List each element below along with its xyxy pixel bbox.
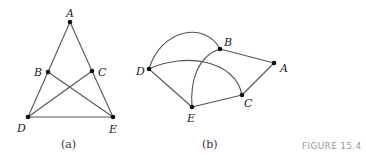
label-b-C: C: [244, 97, 253, 110]
graph-a: A B C D E (a): [16, 7, 117, 151]
edge-b-be: [192, 49, 220, 107]
edge-b-ce: [192, 95, 242, 107]
figure-canvas: A B C D E (a) A B C D E (b) FIGURE 15.4: [0, 0, 366, 160]
label-b-E: E: [186, 112, 195, 125]
edge-b-dc: [149, 60, 242, 95]
node-a-C: [90, 69, 95, 74]
label-b-D: D: [135, 65, 145, 78]
label-b-B: B: [223, 36, 232, 49]
node-b-E: [190, 105, 195, 110]
label-a-C: C: [98, 66, 107, 79]
caption-b: (b): [202, 138, 218, 151]
node-a-A: [68, 20, 73, 25]
node-a-E: [111, 115, 116, 120]
label-a-B: B: [33, 66, 42, 79]
label-a-D: D: [16, 122, 26, 135]
edge-a-ab: [48, 22, 70, 72]
edge-b-ba: [220, 49, 274, 63]
label-a-E: E: [108, 123, 117, 136]
node-a-B: [46, 70, 51, 75]
caption-a: (a): [61, 138, 76, 151]
graph-b: A B C D E (b): [135, 32, 288, 151]
edge-a-ac: [70, 22, 92, 71]
label-a-A: A: [65, 7, 74, 20]
node-a-D: [26, 115, 31, 120]
edge-b-ac: [242, 63, 274, 95]
label-b-A: A: [279, 62, 288, 75]
node-b-A: [272, 61, 277, 66]
node-b-B: [218, 47, 223, 52]
node-b-D: [147, 67, 152, 72]
edge-b-ed: [149, 69, 192, 107]
figure-label: FIGURE 15.4: [302, 141, 362, 151]
